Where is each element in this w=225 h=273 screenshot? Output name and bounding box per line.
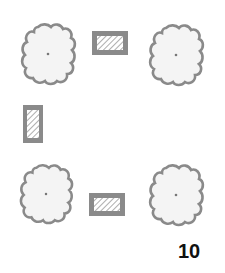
tree-top-left-icon (22, 24, 75, 84)
site-plan-diagram (0, 0, 225, 273)
planter-bottom-icon (89, 193, 125, 216)
page-number: 10 (178, 240, 200, 262)
tree-top-right-icon (150, 25, 203, 85)
tree-bottom-right-icon (150, 165, 203, 225)
planter-top-icon (92, 31, 128, 55)
tree-bottom-left-icon (21, 165, 72, 223)
planter-left-icon (23, 105, 43, 143)
